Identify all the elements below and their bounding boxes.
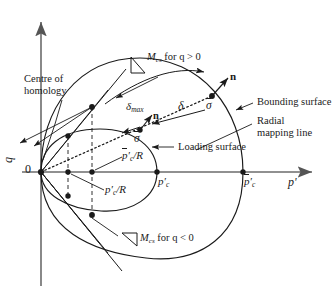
dot-pc-bar-over-R <box>89 169 94 174</box>
bounding-surface-tangent-arrow <box>105 70 204 104</box>
centre-of-homology-line1: Centre of <box>24 73 67 85</box>
leader-mcs-negative <box>92 218 118 236</box>
construction-lines <box>68 107 92 215</box>
dot-mcs-upper-inner <box>65 133 70 138</box>
pc-prime-label: p′c <box>158 175 169 189</box>
normal-bar-label: n <box>230 70 236 82</box>
p-axis-label: p' <box>288 176 297 189</box>
leader-pc-bar-over-R <box>95 157 122 170</box>
pc-bar-prime-label: p′c <box>244 175 255 189</box>
dot-pc-prime <box>154 169 159 174</box>
centre-of-homology-label: Centre of homology <box>24 73 67 97</box>
bounding-surface-label: Bounding surface <box>257 96 331 108</box>
surface-direction-arrow <box>105 70 204 104</box>
pc-over-R-label: p′c/R <box>105 183 126 197</box>
dot-origin <box>38 169 44 175</box>
leader-bounding-surface <box>236 103 253 110</box>
slope-triangle-negative <box>122 233 137 246</box>
normal-vector-loading <box>140 115 152 130</box>
origin-label: 0 <box>25 163 31 176</box>
q-axis-label: q <box>2 157 15 163</box>
dot-pc-over-R <box>65 169 70 174</box>
dot-mcs-lower-inner <box>65 193 70 198</box>
radial-mapping-line2: mapping line <box>257 127 312 139</box>
leader-centre-homology-2 <box>34 107 92 146</box>
radial-mapping-line-label: Radial mapping line <box>257 115 312 139</box>
leader-mcs-positive <box>116 77 158 98</box>
normal-vector-bounding <box>212 78 228 96</box>
pc-bar-over-R-label: p′c/R <box>122 149 143 163</box>
delta-max-label: δmax <box>126 100 144 114</box>
leader-pc-over-R <box>71 174 104 190</box>
mcs-positive-label: Mcs for q > 0 <box>147 51 201 64</box>
sigma-label: σ <box>134 132 140 145</box>
sigma-bar-label: σ <box>206 99 212 112</box>
slope-triangle-positive <box>131 57 145 73</box>
dot-mcs-lower-outer <box>89 212 95 218</box>
mcs-line-positive-inner <box>41 90 108 172</box>
normal-label: n <box>153 110 159 122</box>
diagram-svg <box>0 0 332 291</box>
loading-surface-label: Loading surface <box>178 141 246 153</box>
figure-canvas: q 0 p' Mcs for q > 0 Mcs for q < 0 Centr… <box>0 0 332 291</box>
radial-mapping-line1: Radial <box>257 115 312 127</box>
centre-of-homology-line2: homology <box>24 85 67 97</box>
delta-label: δ <box>178 100 184 113</box>
leader-centre-homology-3 <box>20 107 92 143</box>
mcs-negative-label: Mcs for q < 0 <box>140 232 194 245</box>
